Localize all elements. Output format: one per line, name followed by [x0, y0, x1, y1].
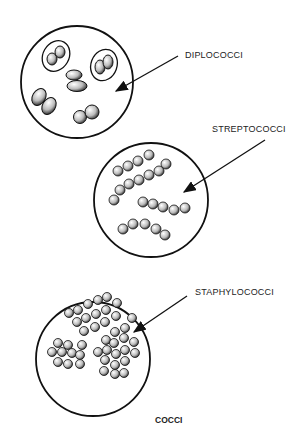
staphylococci-panel	[36, 293, 187, 417]
diagram-caption: COCCI	[155, 415, 182, 425]
diplococci-label: DIPLOCOCCI	[185, 50, 243, 60]
cocci-diagram	[0, 0, 298, 438]
diplococci-panel	[21, 26, 178, 138]
staphylococci-label: STAPHYLOCOCCI	[195, 287, 274, 297]
streptococci-label: STREPTOCOCCI	[212, 124, 286, 134]
streptococci-panel	[94, 140, 265, 257]
